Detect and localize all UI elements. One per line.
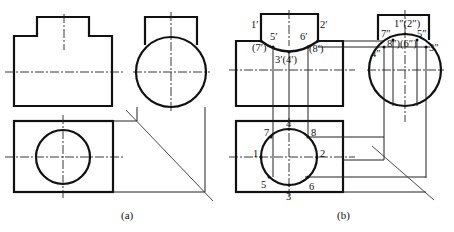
label-7-front: (7′) <box>252 42 267 54</box>
point-7-top <box>270 136 273 139</box>
caption-b: (b) <box>337 209 350 222</box>
miter-line-a <box>126 110 213 201</box>
point-5-front <box>272 46 275 49</box>
top-view-rect-a <box>14 121 113 192</box>
label-5-front: 5′ <box>270 31 278 42</box>
label-3-side: 3″ <box>429 42 439 53</box>
label-86-side: 8″)(6″) <box>387 38 417 50</box>
figure-b: 1′ 2′ 5′ 6′ (7′) (8′) 3′(4′) 1″(2″) 7″ 5… <box>229 10 444 222</box>
label-7-top: 7 <box>264 127 269 138</box>
label-8-front: (8′) <box>309 43 324 55</box>
caption-a: (a) <box>121 209 134 222</box>
point-6-top <box>307 176 310 179</box>
label-3-top: 3 <box>286 191 291 202</box>
point-4-side <box>383 46 386 49</box>
orthographic-drawing: (a) 1′ 2′ 5′ 6′ (7′) (8′) 3′(4′) <box>0 0 454 232</box>
label-2-front: 2′ <box>320 19 328 30</box>
label-6-front: 6′ <box>300 31 308 42</box>
point-8-top <box>307 136 310 139</box>
point-1-top <box>260 156 263 159</box>
label-34-front: 3′(4′) <box>275 54 298 66</box>
label-6-top: 6 <box>309 181 314 192</box>
label-4-side: 4″ <box>371 48 381 59</box>
label-4-top: 4 <box>286 118 292 129</box>
point-3-side <box>425 46 428 49</box>
figure-a: (a) <box>5 12 213 222</box>
label-5-side: 5″ <box>417 28 427 39</box>
point-5-top <box>268 176 271 179</box>
label-2-top: 2 <box>320 148 325 159</box>
label-1-top: 1 <box>253 148 258 159</box>
label-5-top: 5 <box>261 179 266 190</box>
front-view-outline-a <box>14 17 112 106</box>
point-3-top <box>288 184 291 187</box>
point-12-side <box>404 33 407 36</box>
label-8-top: 8 <box>311 127 316 138</box>
label-1-front: 1′ <box>251 19 259 30</box>
point-2-top <box>316 156 319 159</box>
